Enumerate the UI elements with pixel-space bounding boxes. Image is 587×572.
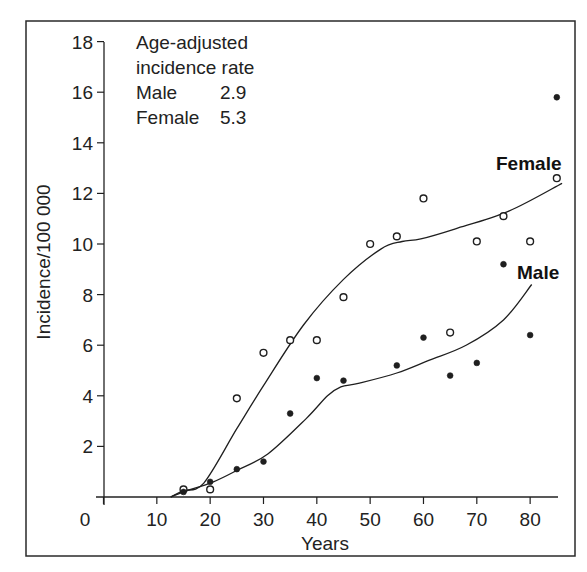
male-data-point xyxy=(261,459,267,465)
x-tick-label: 30 xyxy=(253,509,274,530)
y-tick-label: 10 xyxy=(72,234,93,255)
y-tick-label: 16 xyxy=(72,82,93,103)
male-fitted-curve xyxy=(171,285,532,498)
male-series-label: Male xyxy=(517,262,559,283)
y-tick-label: 12 xyxy=(72,183,93,204)
male-data-point xyxy=(341,378,347,384)
x-tick-label: 70 xyxy=(466,509,487,530)
female-data-point xyxy=(233,395,240,402)
female-data-point xyxy=(393,233,400,240)
female-data-point xyxy=(260,349,267,356)
female-data-point xyxy=(527,238,534,245)
note-female-label: Female xyxy=(136,107,199,128)
note-line-2: incidence rate xyxy=(136,57,254,78)
y-axis-title: Incidence/100 000 xyxy=(33,184,54,339)
y-tick-label: 4 xyxy=(82,386,93,407)
male-data-point xyxy=(554,94,560,100)
x-axis-title: Years xyxy=(301,533,349,554)
female-data-point xyxy=(420,195,427,202)
y-tick-label: 18 xyxy=(72,32,93,53)
note-male-label: Male xyxy=(136,82,177,103)
incidence-chart: 24681012141618 01020304050607080 Inciden… xyxy=(0,0,587,572)
x-tick-label: 20 xyxy=(200,509,221,530)
female-data-point xyxy=(367,241,374,248)
y-axis-ticks: 24681012141618 xyxy=(72,32,104,458)
x-tick-label: 10 xyxy=(146,509,167,530)
female-data-point xyxy=(553,175,560,182)
female-data-point xyxy=(287,337,294,344)
female-series-label: Female xyxy=(496,153,561,174)
y-tick-label: 6 xyxy=(82,335,93,356)
note-female-value: 5.3 xyxy=(220,107,246,128)
female-data-point xyxy=(340,294,347,301)
male-data-point xyxy=(207,479,213,485)
male-data-point xyxy=(314,375,320,381)
age-adjusted-note: Age-adjusted incidence rate Male 2.9 Fem… xyxy=(136,32,254,128)
x-tick-label: 0 xyxy=(80,509,91,530)
x-tick-label: 40 xyxy=(306,509,327,530)
female-data-point xyxy=(473,238,480,245)
male-data-point xyxy=(527,332,533,338)
female-data-point xyxy=(500,213,507,220)
chart-frame xyxy=(26,21,575,556)
y-tick-label: 8 xyxy=(82,285,93,306)
x-axis-ticks: 01020304050607080 xyxy=(80,497,541,530)
x-tick-label: 80 xyxy=(520,509,541,530)
y-tick-label: 2 xyxy=(82,436,93,457)
y-tick-label: 14 xyxy=(72,133,94,154)
male-data-point xyxy=(447,373,453,379)
male-data-point xyxy=(287,411,293,417)
female-data-point xyxy=(313,337,320,344)
female-fitted-curve xyxy=(171,183,562,497)
female-data-point xyxy=(207,486,214,493)
male-data-point xyxy=(474,360,480,366)
note-male-value: 2.9 xyxy=(220,82,246,103)
x-tick-label: 50 xyxy=(360,509,381,530)
male-data-point xyxy=(181,489,187,495)
male-data-point xyxy=(421,335,427,341)
x-tick-label: 60 xyxy=(413,509,434,530)
female-data-point xyxy=(447,329,454,336)
note-line-1: Age-adjusted xyxy=(136,32,248,53)
male-data-point xyxy=(234,466,240,472)
male-data-point xyxy=(394,363,400,369)
fitted-curves xyxy=(171,183,562,497)
male-data-point xyxy=(501,261,507,267)
